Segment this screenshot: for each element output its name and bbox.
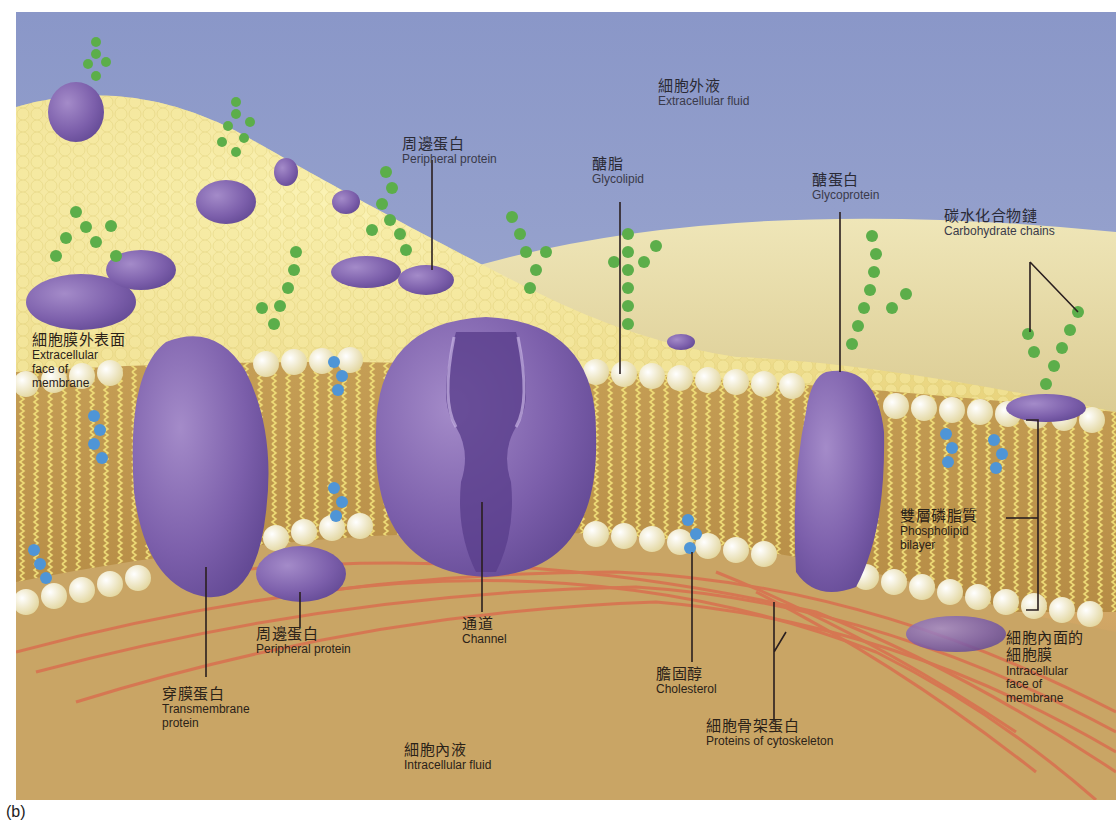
label-carbohydrate-chains: 碳水化合物鏈 Carbohydrate chains — [944, 208, 1055, 239]
label-phospholipid-bilayer: 雙層磷脂質 Phospholipid bilayer — [900, 508, 978, 553]
label-cholesterol: 膽固醇 Cholesterol — [656, 666, 717, 697]
label-cytoskeleton: 細胞骨架蛋白 Proteins of cytoskeleton — [706, 718, 833, 749]
label-channel: 通道 Channel — [462, 616, 507, 647]
label-glycolipid: 醣脂 Glycolipid — [592, 156, 644, 187]
label-intracellular-fluid: 細胞內液 Intracellular fluid — [404, 742, 491, 773]
label-glycoprotein: 醣蛋白 Glycoprotein — [812, 172, 879, 203]
label-extracellular-face: 細胞膜外表面 Extracellular face of membrane — [32, 332, 125, 391]
label-transmembrane-protein: 穿膜蛋白 Transmembrane protein — [162, 686, 250, 731]
channel-protein-shape — [376, 317, 596, 577]
membrane-illustration — [16, 12, 1116, 800]
label-intracellular-face: 細胞內面的 細胞膜 Intracellular face of membrane — [1006, 630, 1084, 706]
label-extracellular-fluid: 細胞外液 Extracellular fluid — [658, 78, 749, 109]
label-peripheral-protein-top: 周邊蛋白 Peripheral protein — [402, 136, 497, 167]
panel-tag: (b) — [6, 803, 26, 821]
cell-membrane-diagram: 細胞外液 Extracellular fluid 周邊蛋白 Peripheral… — [16, 12, 1116, 800]
label-peripheral-protein-bottom: 周邊蛋白 Peripheral protein — [256, 626, 351, 657]
